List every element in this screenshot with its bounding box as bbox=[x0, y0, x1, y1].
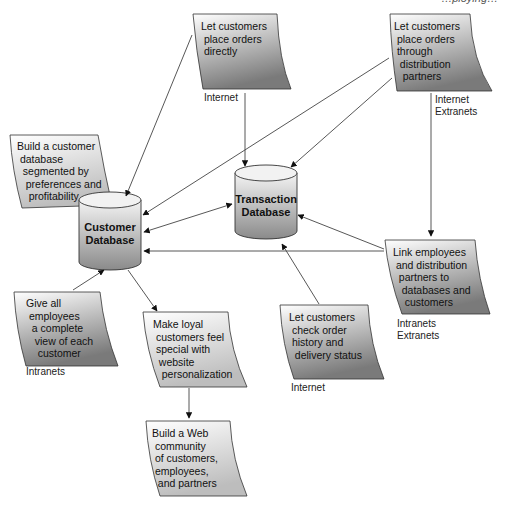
label-place-partners: Internet Extranets bbox=[435, 94, 477, 118]
note-build-db: Build a customer database segmented by p… bbox=[17, 140, 102, 203]
label-check-order: Internet bbox=[291, 382, 325, 394]
label-place-direct: Internet bbox=[204, 92, 238, 104]
customer-db-line1: Customer bbox=[84, 221, 135, 233]
arrow-place-direct-to-customer-db bbox=[126, 35, 192, 196]
transaction-db-line2: Database bbox=[242, 206, 291, 218]
note-link-employees: Link employees and distribution partners… bbox=[393, 246, 471, 309]
label-link-employees: Intranets Extranets bbox=[397, 318, 439, 342]
arrow-place-partners-to-transaction-db bbox=[291, 78, 392, 167]
arrow-give-employees-to-customer-db bbox=[73, 270, 104, 290]
customer-database-label: CustomerDatabase bbox=[80, 221, 140, 247]
arrow-customer-db-to-make-loyal bbox=[128, 270, 157, 311]
arrow-customer-db-transaction-db bbox=[144, 204, 232, 232]
note-check-order: Let customers check order history and de… bbox=[289, 311, 362, 361]
arrow-link-employees-to-transaction-db bbox=[298, 215, 384, 249]
note-web-community: Build a Web community of customers, empl… bbox=[152, 427, 218, 490]
label-give-employees: Intranets bbox=[26, 366, 65, 378]
customer-db-line2: Database bbox=[86, 234, 135, 246]
transaction-db-line1: Transaction bbox=[235, 193, 297, 205]
transaction-database-label: TransactionDatabase bbox=[232, 193, 300, 219]
arrow-check-order-to-transaction-db bbox=[282, 244, 319, 304]
cropped-page-header: …ploying… bbox=[441, 0, 498, 4]
note-place-direct: Let customers place orders directly bbox=[201, 20, 267, 58]
note-give-employees: Give all employees a complete view of ea… bbox=[26, 297, 93, 360]
note-make-loyal: Make loyal customers feel special with w… bbox=[153, 318, 232, 381]
note-place-partners: Let customers place orders through distr… bbox=[394, 20, 460, 83]
